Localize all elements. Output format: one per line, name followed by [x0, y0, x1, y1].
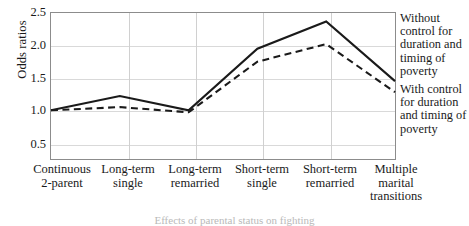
y-tick-2.0: 2.0	[20, 39, 46, 52]
y-tick-1.0: 1.0	[20, 104, 46, 117]
series-line-without-control	[51, 21, 395, 110]
x-tick-label-line: transitions	[349, 190, 443, 204]
y-tick-1.5: 1.5	[20, 72, 46, 85]
figure-caption: Effects of parental status on fighting	[0, 214, 469, 226]
plot-area	[50, 12, 396, 160]
x-tick-label-line: marital	[349, 177, 443, 191]
series-svg	[51, 13, 395, 159]
legend-entry-with-control: With control for duration and timing of …	[400, 83, 469, 136]
x-tick-label-line: Multiple	[349, 163, 443, 177]
y-tick-0.5: 0.5	[20, 138, 46, 151]
x-tick-multiple-marital-transitions: Multiplemaritaltransitions	[349, 163, 443, 204]
legend-entry-without-control: Without control for duration and timing …	[400, 12, 469, 78]
legend: Without control for duration and timing …	[400, 12, 469, 136]
figure: Odds ratios 2.5 2.0 1.5 1.0 0.5 Continuo…	[0, 0, 469, 226]
x-axis-tick-labels: Continuous2-parent Long-termsingle Long-…	[0, 163, 469, 209]
y-tick-2.5: 2.5	[20, 6, 46, 19]
